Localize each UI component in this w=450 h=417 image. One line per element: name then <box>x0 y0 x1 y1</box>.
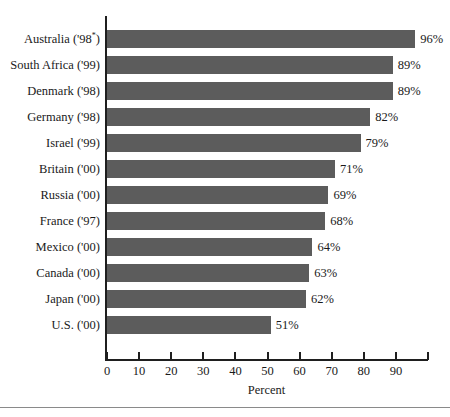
bar <box>107 186 328 204</box>
bar <box>107 316 271 334</box>
bar-category-label: Japan ('00) <box>0 290 100 308</box>
bar-value-label: 71% <box>340 160 363 178</box>
x-axis-tick-label: 90 <box>376 364 416 379</box>
bottom-divider <box>0 407 450 408</box>
bar-value-label: 82% <box>375 108 398 126</box>
bar-row: Russia ('00)69% <box>0 186 450 204</box>
bar-row: Germany ('98)82% <box>0 108 450 126</box>
plot-area: Australia ('98*)96%South Africa ('99)89%… <box>0 0 450 417</box>
bar-row: Denmark ('98)89% <box>0 82 450 100</box>
x-axis-tick <box>363 352 365 360</box>
bar-value-label: 62% <box>311 290 334 308</box>
bar-category-label: Canada ('00) <box>0 264 100 282</box>
bar-row: Canada ('00)63% <box>0 264 450 282</box>
bar-value-label: 51% <box>276 316 299 334</box>
bar-category-label: Britain ('00) <box>0 160 100 178</box>
bar <box>107 290 306 308</box>
bar-row: Israel ('99)79% <box>0 134 450 152</box>
bar-category-label: U.S. ('00) <box>0 316 100 334</box>
bar-value-label: 79% <box>366 134 389 152</box>
x-axis-tick <box>106 352 108 360</box>
bar-category-label: Australia ('98*) <box>0 30 100 48</box>
x-axis-tick <box>267 352 269 360</box>
x-axis-title: Percent <box>105 383 428 398</box>
bar-category-label: South Africa ('99) <box>0 56 100 74</box>
bar-category-label: France ('97) <box>0 212 100 230</box>
bar-value-label: 63% <box>314 264 337 282</box>
bar-row: Britain ('00)71% <box>0 160 450 178</box>
bar-category-label: Mexico ('00) <box>0 238 100 256</box>
bar-row: Australia ('98*)96% <box>0 30 450 48</box>
bar-row: France ('97)68% <box>0 212 450 230</box>
footnote-asterisk: * <box>92 31 96 40</box>
bar <box>107 264 309 282</box>
bar-value-label: 89% <box>398 82 421 100</box>
x-axis-tick <box>234 352 236 360</box>
bar-row: U.S. ('00)51% <box>0 316 450 334</box>
bar <box>107 212 325 230</box>
x-axis-tick <box>427 352 429 360</box>
x-axis-tick <box>299 352 301 360</box>
x-axis-tick <box>138 352 140 360</box>
x-axis-tick <box>395 352 397 360</box>
bar-value-label: 64% <box>317 238 340 256</box>
x-axis-tick <box>170 352 172 360</box>
bar <box>107 56 393 74</box>
bar-value-label: 68% <box>330 212 353 230</box>
bar <box>107 134 361 152</box>
bar-row: South Africa ('99)89% <box>0 56 450 74</box>
bar <box>107 238 312 256</box>
bar-category-label: Denmark ('98) <box>0 82 100 100</box>
bar <box>107 30 415 48</box>
bar-value-label: 96% <box>420 30 443 48</box>
bar-value-label: 69% <box>333 186 356 204</box>
bar-value-label: 89% <box>398 56 421 74</box>
x-axis-tick <box>202 352 204 360</box>
bar-category-label: Germany ('98) <box>0 108 100 126</box>
bar-category-label: Israel ('99) <box>0 134 100 152</box>
x-axis-tick <box>331 352 333 360</box>
bar-row: Japan ('00)62% <box>0 290 450 308</box>
bar-category-label: Russia ('00) <box>0 186 100 204</box>
bar <box>107 160 335 178</box>
bar-row: Mexico ('00)64% <box>0 238 450 256</box>
bar <box>107 108 370 126</box>
bar <box>107 82 393 100</box>
horizontal-bar-chart: Australia ('98*)96%South Africa ('99)89%… <box>0 0 450 417</box>
